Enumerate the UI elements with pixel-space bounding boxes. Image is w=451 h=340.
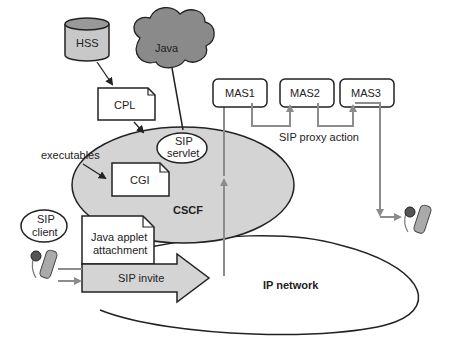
- sip-client: SIP client: [21, 210, 67, 242]
- sip-servlet-label-2: servlet: [167, 147, 199, 159]
- java-applet-label-1: Java applet: [91, 231, 147, 243]
- sip-proxy-action-label: SIP proxy action: [279, 131, 359, 143]
- cpl-label: CPL: [114, 99, 135, 111]
- cpl-document: CPL: [98, 88, 155, 120]
- cscf-label: CSCF: [173, 204, 203, 216]
- java-to-servlet-line: [172, 68, 183, 130]
- mas1-box: MAS1: [213, 79, 267, 107]
- phone-icon-callee: [405, 204, 432, 234]
- cpl-to-cscf-arrow: [134, 122, 143, 132]
- sip-architecture-diagram: IP network CSCF HSS Java CPL SIP servlet…: [0, 0, 451, 340]
- diagram-svg: IP network CSCF HSS Java CPL SIP servlet…: [0, 0, 451, 340]
- phone-icon-client: [31, 249, 58, 279]
- mas3-label: MAS3: [351, 87, 381, 99]
- mas2-box: MAS2: [280, 79, 334, 107]
- sip-servlet-label-1: SIP: [175, 135, 193, 147]
- hss-database: HSS: [65, 18, 109, 61]
- mas3-down-arrow: [355, 103, 380, 215]
- ip-network-label: IP network: [263, 279, 319, 291]
- mas1-label: MAS1: [225, 87, 255, 99]
- hss-label: HSS: [76, 37, 99, 49]
- sip-servlet: SIP servlet: [157, 133, 207, 163]
- sip-invite-label: SIP invite: [118, 272, 164, 284]
- sip-client-label-1: SIP: [37, 213, 55, 225]
- java-applet-label-2: attachment: [93, 244, 147, 256]
- java-label: Java: [155, 42, 179, 54]
- sip-client-label-2: client: [32, 226, 58, 238]
- hss-to-cpl-arrow: [97, 62, 112, 84]
- java-cloud: Java: [134, 8, 214, 68]
- cgi-label: CGI: [130, 174, 150, 186]
- executables-label: executables: [41, 149, 100, 161]
- java-applet-document: Java applet attachment: [82, 216, 154, 264]
- mas2-label: MAS2: [290, 87, 320, 99]
- cgi-document: CGI: [112, 163, 169, 196]
